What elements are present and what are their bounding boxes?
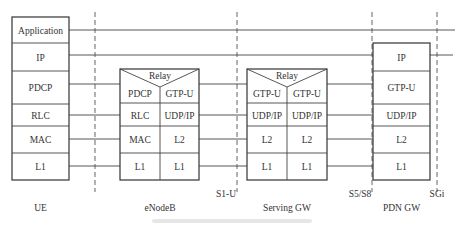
ue-layer-mac: MAC <box>30 135 52 145</box>
enodeb-left-mac: MAC <box>129 135 151 145</box>
pdn-gw-layer-l1: L1 <box>396 162 407 172</box>
ue-layer-rlc: RLC <box>31 111 49 121</box>
enodeb-left-pdcp: PDCP <box>128 89 152 99</box>
interface-label-s1u: S1-U <box>216 189 236 199</box>
pdn-gw-layer-udpip: UDP/IP <box>386 111 416 121</box>
ue-layer-l1: L1 <box>35 162 46 172</box>
serving-gw-right-udpip: UDP/IP <box>292 111 322 121</box>
serving-gw-left-l1: L1 <box>262 162 273 172</box>
pdn-gw-stack: IP GTP-U UDP/IP L2 L1 <box>373 43 430 180</box>
pdn-gw-layer-ip: IP <box>397 53 405 63</box>
serving-gw-stack: Relay GTP-U UDP/IP L2 L1 GTP-U UDP/IP L2… <box>247 69 327 180</box>
serving-gw-left-udpip: UDP/IP <box>252 111 282 121</box>
serving-gw-right-gtpu: GTP-U <box>293 89 321 99</box>
serving-gw-right-l2: L2 <box>302 135 313 145</box>
serving-gw-relay-label: Relay <box>276 71 298 81</box>
pdn-gw-layer-l2: L2 <box>396 135 407 145</box>
serving-gw-left-gtpu: GTP-U <box>253 89 281 99</box>
protocol-stack-diagram: Application IP PDCP RLC MAC L1 Relay PDC… <box>0 0 465 227</box>
faint-caption <box>152 219 312 223</box>
ue-layer-ip: IP <box>36 53 44 63</box>
interface-label-sgi: SGi <box>430 189 445 199</box>
pdn-gw-layer-gtpu: GTP-U <box>388 83 416 93</box>
enodeb-stack: Relay PDCP RLC MAC L1 GTP-U UDP/IP L2 L1 <box>120 69 199 180</box>
ue-stack: Application IP PDCP RLC MAC L1 <box>12 17 69 180</box>
ue-stack-frame <box>12 17 69 180</box>
node-label-pdn-gw: PDN GW <box>383 203 420 213</box>
enodeb-right-gtpu: GTP-U <box>166 89 194 99</box>
node-label-serving-gw: Serving GW <box>263 203 311 213</box>
serving-gw-right-l1: L1 <box>302 162 313 172</box>
enodeb-relay-label: Relay <box>149 71 171 81</box>
node-label-ue: UE <box>34 203 47 213</box>
enodeb-right-l1: L1 <box>174 162 185 172</box>
serving-gw-left-l2: L2 <box>262 135 273 145</box>
ue-layer-pdcp: PDCP <box>29 83 53 93</box>
node-label-enodeb: eNodeB <box>144 203 175 213</box>
enodeb-right-l2: L2 <box>174 135 185 145</box>
enodeb-left-rlc: RLC <box>131 111 149 121</box>
enodeb-left-l1: L1 <box>135 162 146 172</box>
interface-label-s5s8: S5/S8 <box>349 189 372 199</box>
ue-layer-application: Application <box>18 26 63 36</box>
enodeb-right-udpip: UDP/IP <box>164 111 194 121</box>
enodeb-stack-frame <box>120 69 199 180</box>
